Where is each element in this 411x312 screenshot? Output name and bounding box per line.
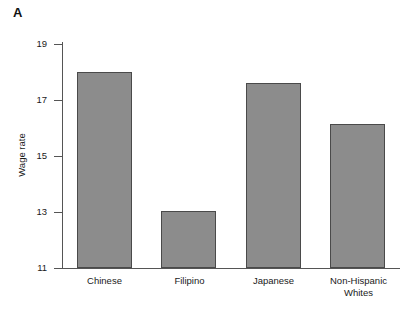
bar-filipino (161, 211, 216, 268)
x-axis-line (62, 268, 400, 269)
y-tick-label-15: 15 (7, 151, 47, 161)
x-tick-label-chinese: Chinese (62, 275, 147, 287)
bar-chinese (77, 72, 132, 268)
y-tick-mark-17 (54, 100, 62, 101)
y-tick-mark-15 (54, 156, 62, 157)
x-tick-label-non-hispanic-whites: Non-Hispanic Whites (316, 275, 401, 298)
x-tick-label-filipino: Filipino (147, 275, 232, 287)
panel-letter: A (13, 6, 23, 19)
y-tick-mark-19 (54, 44, 62, 45)
bar-japanese (246, 83, 301, 268)
x-tick-label-japanese: Japanese (231, 275, 316, 287)
y-tick-mark-13 (54, 212, 62, 213)
y-tick-mark-11 (54, 268, 62, 269)
y-axis-line (62, 42, 63, 269)
y-tick-label-17: 17 (7, 95, 47, 105)
y-tick-label-19: 19 (7, 39, 47, 49)
y-tick-label-11: 11 (7, 263, 47, 273)
bar-non-hispanic-whites (330, 124, 385, 268)
bar-chart-figure: A Wage rate 19 17 15 13 11 Chinese Filip… (0, 0, 411, 312)
y-tick-label-13: 13 (7, 207, 47, 217)
